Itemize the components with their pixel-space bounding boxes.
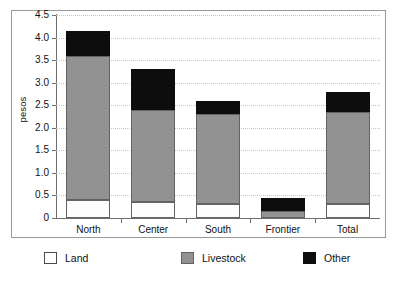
bar-segment-other bbox=[131, 69, 175, 110]
y-axis-tick-label: 2.0 bbox=[35, 123, 49, 133]
y-axis-tick-mark bbox=[52, 128, 56, 129]
bar-segment-land bbox=[326, 204, 370, 218]
y-axis-tick-mark bbox=[52, 195, 56, 196]
legend-label: Land bbox=[65, 253, 88, 264]
x-axis-tick-mark bbox=[121, 219, 122, 223]
bar-segment-other bbox=[261, 198, 305, 212]
y-axis-tick-label: 2.5 bbox=[35, 100, 49, 110]
land-swatch bbox=[44, 252, 57, 264]
bar-segment-livestock bbox=[261, 211, 305, 218]
x-axis-label-frontier: Frontier bbox=[266, 224, 300, 235]
legend-item-livestock[interactable]: Livestock bbox=[181, 252, 246, 264]
bar-segment-livestock bbox=[66, 56, 110, 200]
plot-area: 00.51.01.52.02.53.03.54.04.5 bbox=[56, 15, 380, 218]
y-axis-tick-mark bbox=[52, 105, 56, 106]
x-axis-line bbox=[56, 218, 380, 219]
y-axis-tick-mark bbox=[52, 83, 56, 84]
x-axis-tick-mark bbox=[250, 219, 251, 223]
bar-segment-other bbox=[196, 101, 240, 115]
x-axis-tick-mark bbox=[315, 219, 316, 223]
y-axis-tick-mark bbox=[52, 173, 56, 174]
y-axis-tick-label: 1.5 bbox=[35, 145, 49, 155]
livestock-swatch bbox=[181, 252, 194, 264]
bar-segment-livestock bbox=[196, 114, 240, 204]
bar-stack bbox=[131, 15, 175, 218]
bar-segment-land bbox=[196, 204, 240, 218]
y-axis-tick-mark bbox=[52, 38, 56, 39]
legend-item-other[interactable]: Other bbox=[303, 252, 350, 264]
bar-segment-other bbox=[66, 31, 110, 56]
y-axis-tick-label: 3.5 bbox=[35, 55, 49, 65]
bar-stack bbox=[196, 15, 240, 218]
bar-stack bbox=[326, 15, 370, 218]
y-axis-tick-mark bbox=[52, 218, 56, 219]
y-axis-tick-label: 4.5 bbox=[35, 10, 49, 20]
legend-label: Other bbox=[324, 253, 350, 264]
y-axis-tick-label: 4.0 bbox=[35, 33, 49, 43]
y-axis-tick-mark bbox=[52, 150, 56, 151]
bar-stack bbox=[66, 15, 110, 218]
legend-item-land[interactable]: Land bbox=[44, 252, 88, 264]
bar-segment-land bbox=[66, 200, 110, 218]
x-axis-label-total: Total bbox=[337, 224, 358, 235]
bar-stack bbox=[261, 15, 305, 218]
chart-legend: LandLivestockOther bbox=[11, 252, 386, 274]
chart-figure: pesos 00.51.01.52.02.53.03.54.04.5 North… bbox=[0, 0, 397, 286]
y-axis-tick-label: 1.0 bbox=[35, 168, 49, 178]
x-axis-label-south: South bbox=[205, 224, 231, 235]
bar-segment-other bbox=[326, 92, 370, 112]
y-axis-title: pesos bbox=[17, 80, 28, 140]
y-axis-tick-mark bbox=[52, 15, 56, 16]
x-axis-tick-mark bbox=[186, 219, 187, 223]
x-axis-label-north: North bbox=[76, 224, 100, 235]
bar-segment-livestock bbox=[131, 110, 175, 202]
bar-segment-livestock bbox=[326, 112, 370, 204]
y-axis-tick-mark bbox=[52, 60, 56, 61]
legend-label: Livestock bbox=[202, 253, 246, 264]
y-axis-tick-label: 3.0 bbox=[35, 78, 49, 88]
other-swatch bbox=[303, 252, 316, 264]
x-axis-label-center: Center bbox=[138, 224, 168, 235]
bar-segment-land bbox=[131, 202, 175, 218]
y-axis-tick-label: 0.5 bbox=[35, 190, 49, 200]
y-axis-tick-label: 0 bbox=[43, 213, 49, 223]
